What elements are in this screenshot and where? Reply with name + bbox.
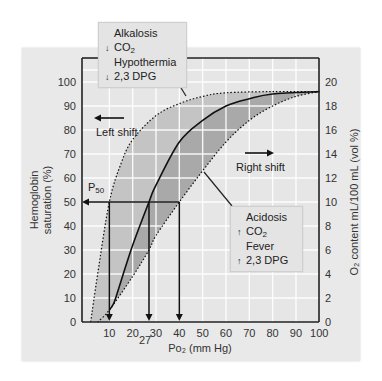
y-axis-title-line2: saturation (%) bbox=[41, 166, 53, 234]
callout-hypothermia: Hypothermia bbox=[105, 55, 181, 69]
svg-text:18: 18 bbox=[325, 100, 337, 112]
callout-co2-decrease: ↓CO2 bbox=[105, 40, 181, 55]
svg-text:20: 20 bbox=[64, 268, 76, 280]
svg-text:30: 30 bbox=[64, 244, 76, 256]
right-shift-causes-callout: Acidosis ↑CO2 Fever ↑2,3 DPG bbox=[230, 206, 303, 272]
svg-text:16: 16 bbox=[325, 124, 337, 136]
svg-text:90: 90 bbox=[64, 100, 76, 112]
callout-co2-increase: ↑CO2 bbox=[237, 224, 297, 239]
down-arrow-icon: ↓ bbox=[105, 41, 114, 55]
x-tick-27: 27 bbox=[139, 334, 151, 346]
y-axis-ticks: 0102030405060708090100 bbox=[58, 76, 76, 328]
right-shift-label: Right shift bbox=[236, 161, 285, 173]
callout-fever: Fever bbox=[237, 239, 297, 253]
left-shift-label: Left shift bbox=[96, 126, 138, 138]
callout-dpg-increase: ↑2,3 DPG bbox=[237, 253, 297, 268]
x-axis-ticks: 102030405060708090100 bbox=[103, 327, 328, 339]
y2-axis-title: O₂ content mL/100 mL (vol %) bbox=[348, 129, 360, 276]
svg-text:4: 4 bbox=[325, 268, 331, 280]
svg-text:50: 50 bbox=[64, 196, 76, 208]
svg-text:20: 20 bbox=[325, 76, 337, 88]
left-shift-causes-callout: Alkalosis ↓CO2 Hypothermia ↓2,3 DPG bbox=[98, 22, 187, 88]
svg-text:40: 40 bbox=[173, 327, 185, 339]
down-arrow-icon: ↓ bbox=[105, 70, 114, 84]
svg-text:80: 80 bbox=[64, 124, 76, 136]
svg-text:100: 100 bbox=[310, 327, 328, 339]
svg-text:100: 100 bbox=[58, 76, 76, 88]
oxygen-dissociation-chart: 0102030405060708090100 02468101214161820… bbox=[0, 0, 382, 381]
x-axis-title: Po₂ (mm Hg) bbox=[168, 342, 232, 354]
callout-alkalosis: Alkalosis bbox=[105, 26, 181, 40]
svg-text:50: 50 bbox=[197, 327, 209, 339]
svg-text:60: 60 bbox=[64, 172, 76, 184]
svg-text:90: 90 bbox=[290, 327, 302, 339]
svg-text:14: 14 bbox=[325, 148, 337, 160]
svg-text:10: 10 bbox=[64, 292, 76, 304]
svg-text:0: 0 bbox=[70, 316, 76, 328]
svg-text:10: 10 bbox=[103, 327, 115, 339]
svg-text:70: 70 bbox=[64, 148, 76, 160]
y-axis-title-line1: Hemoglobin bbox=[28, 171, 40, 230]
up-arrow-icon: ↑ bbox=[237, 225, 246, 239]
svg-text:40: 40 bbox=[64, 220, 76, 232]
up-arrow-icon: ↑ bbox=[237, 254, 246, 268]
svg-text:6: 6 bbox=[325, 244, 331, 256]
svg-text:70: 70 bbox=[243, 327, 255, 339]
svg-text:80: 80 bbox=[267, 327, 279, 339]
svg-text:20: 20 bbox=[127, 327, 139, 339]
callout-acidosis: Acidosis bbox=[237, 210, 297, 224]
svg-text:30: 30 bbox=[150, 327, 162, 339]
callout-dpg-decrease: ↓2,3 DPG bbox=[105, 69, 181, 84]
svg-text:2: 2 bbox=[325, 292, 331, 304]
svg-text:10: 10 bbox=[325, 196, 337, 208]
svg-text:8: 8 bbox=[325, 220, 331, 232]
svg-text:12: 12 bbox=[325, 172, 337, 184]
y2-axis-ticks: 02468101214161820 bbox=[325, 76, 337, 328]
svg-text:60: 60 bbox=[220, 327, 232, 339]
